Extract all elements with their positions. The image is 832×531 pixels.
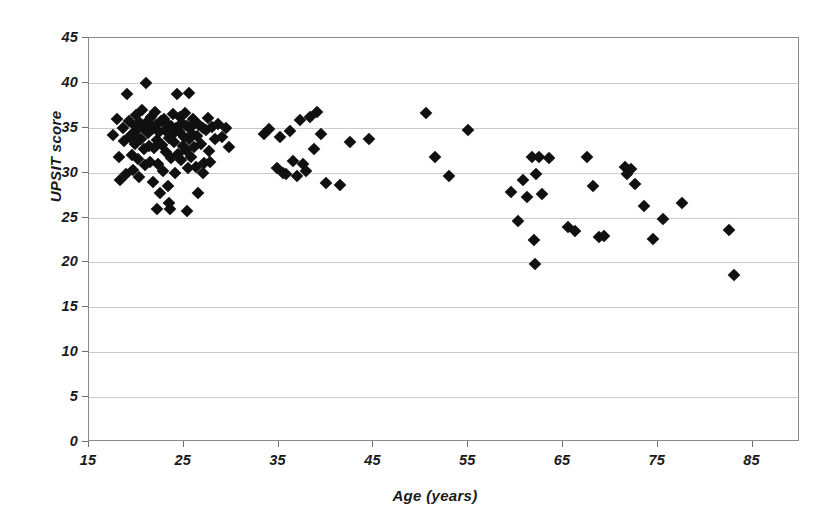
data-point xyxy=(637,200,650,213)
x-tick-mark xyxy=(562,441,563,447)
x-tick-label: 75 xyxy=(649,452,666,468)
x-tick-label: 85 xyxy=(743,452,760,468)
data-point xyxy=(320,177,333,190)
data-point xyxy=(307,143,320,156)
data-point xyxy=(629,178,642,191)
data-point xyxy=(517,173,530,186)
y-tick-label: 35 xyxy=(44,119,78,135)
data-point xyxy=(587,180,600,193)
data-point xyxy=(723,224,736,237)
gridline xyxy=(89,83,798,84)
y-tick-label: 30 xyxy=(44,164,78,180)
data-point xyxy=(151,203,164,216)
y-tick-label: 10 xyxy=(44,343,78,359)
data-point xyxy=(536,188,549,201)
data-point xyxy=(580,151,593,164)
x-tick-mark xyxy=(183,441,184,447)
data-point xyxy=(429,151,442,164)
x-axis-title: Age (years) xyxy=(0,487,832,504)
data-point xyxy=(171,87,184,100)
y-tick-label: 45 xyxy=(44,29,78,45)
y-tick-label: 25 xyxy=(44,209,78,225)
data-point xyxy=(362,132,375,145)
data-point xyxy=(315,128,328,141)
data-point xyxy=(121,87,134,100)
gridline xyxy=(89,397,798,398)
y-tick-label: 40 xyxy=(44,74,78,90)
data-point xyxy=(140,77,153,90)
data-point xyxy=(146,175,159,188)
data-point xyxy=(656,213,669,226)
gridline xyxy=(89,218,798,219)
x-tick-label: 15 xyxy=(80,452,97,468)
y-tick-label: 0 xyxy=(44,433,78,449)
data-point xyxy=(530,168,543,181)
data-point xyxy=(727,269,740,282)
data-point xyxy=(183,86,196,99)
data-point xyxy=(180,205,193,218)
y-tick-label: 5 xyxy=(44,388,78,404)
y-tick-label: 20 xyxy=(44,253,78,269)
data-point xyxy=(113,150,126,163)
data-point xyxy=(521,191,534,204)
data-point xyxy=(334,179,347,192)
x-tick-label: 25 xyxy=(175,452,192,468)
x-tick-label: 65 xyxy=(554,452,571,468)
x-tick-mark xyxy=(657,441,658,447)
data-point xyxy=(528,258,541,271)
data-point xyxy=(169,166,182,179)
gridline xyxy=(89,307,798,308)
data-point xyxy=(527,234,540,247)
data-point xyxy=(192,187,205,200)
x-tick-mark xyxy=(752,441,753,447)
data-point xyxy=(675,197,688,210)
data-point xyxy=(504,186,517,199)
x-tick-mark xyxy=(278,441,279,447)
y-tick-label: 15 xyxy=(44,298,78,314)
data-point xyxy=(647,233,660,246)
data-point xyxy=(223,140,236,153)
data-point xyxy=(343,136,356,149)
data-point xyxy=(462,124,475,137)
data-point xyxy=(106,129,119,142)
x-tick-label: 45 xyxy=(364,452,381,468)
x-tick-mark xyxy=(88,441,89,447)
scatter-chart: UPSIT score 051015202530354045 152535455… xyxy=(0,0,832,531)
x-tick-mark xyxy=(372,441,373,447)
x-tick-mark xyxy=(467,441,468,447)
gridline xyxy=(89,262,798,263)
data-point xyxy=(419,106,432,119)
x-tick-label: 55 xyxy=(459,452,476,468)
plot-area xyxy=(88,37,799,441)
data-point xyxy=(542,152,555,165)
gridline xyxy=(89,352,798,353)
x-tick-label: 35 xyxy=(269,452,286,468)
